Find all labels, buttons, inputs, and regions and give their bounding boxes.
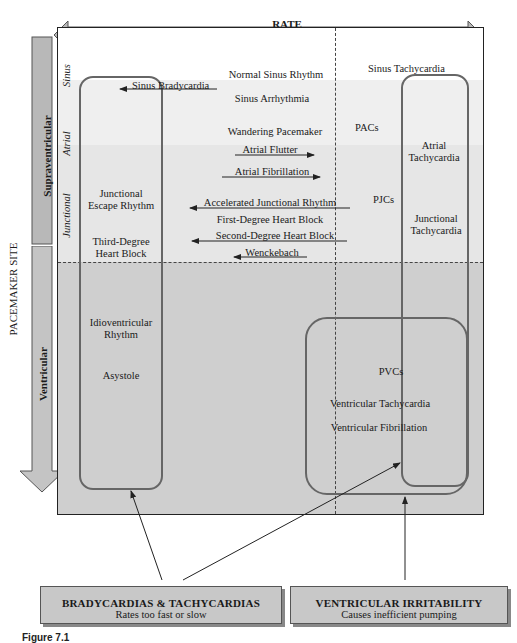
rhythm-atrial-flutter: Atrial Flutter [242,144,297,156]
figure-caption: Figure 7.1 [22,632,69,643]
rhythm-sinus-arrhythmia: Sinus Arrhythmia [235,93,309,105]
rhythm-asystole: Asystole [103,370,140,382]
callout-ventricular-irritability: VENTRICULAR IRRITABILITY Causes ineffici… [290,586,508,624]
rhythm-pvcs: PVCs [379,366,404,378]
callout-subtitle: Causes inefficient pumping [291,609,507,620]
rhythm-sinus-tachycardia: Sinus Tachycardia [368,63,445,75]
rhythm-wandering-pacemaker: Wandering Pacemaker [228,126,323,138]
rhythm-third-degree-block: Third-Degree Heart Block [85,236,157,260]
rhythm-ventricular-tachycardia: Ventricular Tachycardia [330,398,430,410]
callout-title: BRADYCARDIAS & TACHYCARDIAS [41,597,281,609]
callout-subtitle: Rates too fast or slow [41,609,281,620]
rhythm-junctional-tachycardia: Junctional Tachycardia [402,213,470,237]
rhythm-sinus-bradycardia: Sinus Bradycardia [132,80,209,92]
rhythm-wenckebach: Wenckebach [245,247,298,259]
rhythm-atrial-tachycardia: Atrial Tachycardia [403,140,465,164]
callout-bradycardias-tachycardias: BRADYCARDIAS & TACHYCARDIAS Rates too fa… [40,586,282,624]
rhythm-ventricular-fibrillation: Ventricular Fibrillation [331,422,428,434]
rhythm-atrial-fibrillation: Atrial Fibrillation [235,166,309,178]
rhythm-pjcs: PJCs [373,194,394,206]
rhythm-first-degree-block: First-Degree Heart Block [217,214,324,226]
rhythm-junctional-escape: Junctional Escape Rhythm [86,188,156,212]
rhythm-normal-sinus: Normal Sinus Rhythm [229,69,324,81]
rhythm-accelerated-junctional: Accelerated Junctional Rhythm [204,197,336,209]
rhythm-second-degree-block: Second-Degree Heart Block [216,230,334,242]
rhythm-pacs: PACs [355,122,379,134]
rhythm-idioventricular: Idioventricular Rhythm [81,317,161,341]
callout-title: VENTRICULAR IRRITABILITY [291,597,507,609]
